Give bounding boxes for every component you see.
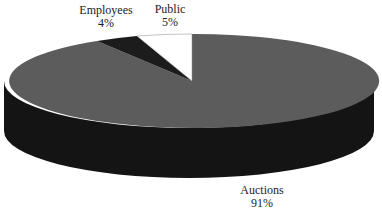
label-employees-pct: 4% — [78, 17, 134, 30]
label-public: Public 5% — [148, 3, 192, 29]
pie-chart — [0, 0, 382, 213]
label-auctions: Auctions 91% — [234, 184, 290, 210]
label-auctions-pct: 91% — [234, 197, 290, 210]
label-public-pct: 5% — [148, 16, 192, 29]
slice-auctions — [9, 34, 379, 128]
label-employees: Employees 4% — [78, 4, 134, 30]
